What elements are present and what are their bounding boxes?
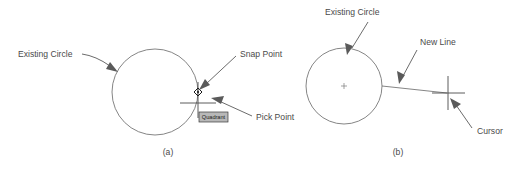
cursor-label: Cursor bbox=[477, 126, 503, 136]
panel-a: Quadrant Existing Circle Snap Point Pick… bbox=[18, 49, 295, 157]
new-line-leader bbox=[397, 50, 417, 84]
existing-circle-leader-a bbox=[82, 54, 118, 72]
crosshair-cursor-icon-b bbox=[432, 76, 465, 110]
existing-circle-label-b: Existing Circle bbox=[325, 7, 380, 17]
cursor-leader bbox=[450, 98, 472, 128]
panel-b: Existing Circle New Line Cursor (b) bbox=[306, 7, 503, 157]
new-line-label: New Line bbox=[420, 37, 456, 47]
new-line-shape bbox=[382, 86, 447, 93]
quadrant-tooltip-label: Quadrant bbox=[202, 114, 226, 120]
panel-b-caption: (b) bbox=[393, 147, 404, 157]
circle-center-mark-icon bbox=[341, 83, 347, 89]
figure-container: Quadrant Existing Circle Snap Point Pick… bbox=[0, 0, 524, 174]
quadrant-tooltip: Quadrant bbox=[199, 112, 228, 122]
panel-a-caption: (a) bbox=[163, 147, 174, 157]
existing-circle-label-a: Existing Circle bbox=[18, 49, 73, 59]
pick-point-label: Pick Point bbox=[256, 112, 295, 122]
snap-point-leader bbox=[199, 56, 236, 90]
existing-circle-shape-a bbox=[112, 49, 198, 135]
snap-point-label: Snap Point bbox=[240, 49, 283, 59]
